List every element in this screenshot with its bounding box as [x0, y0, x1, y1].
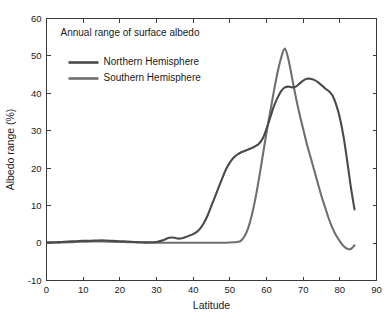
x-tick-label: 60: [261, 284, 272, 295]
x-tick-label: 90: [371, 284, 382, 295]
y-tick-label: 20: [31, 163, 42, 174]
chart-canvas: 0102030405060708090 -100102030405060 Lat…: [0, 0, 392, 324]
x-tick-label: 50: [225, 284, 236, 295]
y-tick-label: 40: [31, 88, 42, 99]
y-tick-label: -10: [28, 275, 42, 286]
x-tick-label: 40: [188, 284, 199, 295]
y-tick-label: 60: [31, 13, 42, 24]
x-tick-label: 80: [335, 284, 346, 295]
x-tick-label: 0: [44, 284, 49, 295]
legend-label-1: Northern Hemisphere: [104, 56, 200, 67]
x-tick-label: 70: [298, 284, 309, 295]
x-tick-label: 30: [151, 284, 162, 295]
y-tick-label: 50: [31, 50, 42, 61]
y-tick-label: 10: [31, 200, 42, 211]
x-tick-label: 20: [115, 284, 126, 295]
y-axis-title: Albedo range (%): [4, 109, 16, 191]
x-axis-title: Latitude: [193, 299, 231, 311]
y-axis-tick-labels: -100102030405060: [28, 13, 42, 286]
chart-figure: 0102030405060708090 -100102030405060 Lat…: [0, 0, 392, 324]
x-tick-label: 10: [78, 284, 89, 295]
x-axis-tick-labels: 0102030405060708090: [44, 284, 382, 295]
chart-title: Annual range of surface albedo: [61, 27, 200, 38]
legend-label-2: Southern Hemisphere: [104, 72, 202, 83]
y-tick-label: 0: [36, 237, 41, 248]
y-tick-label: 30: [31, 125, 42, 136]
